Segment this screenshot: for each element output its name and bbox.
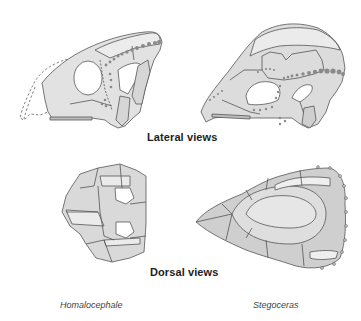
homalocephale-dorsal-skull: [62, 164, 146, 262]
stegoceras-lateral-skull: [201, 24, 345, 128]
species-label-homalocephale: Homalocephale: [60, 300, 123, 310]
skull-comparison-figure: Lateral views Dorsal views Homalocephale…: [0, 0, 361, 321]
stegoceras-dorsal-skull: [196, 166, 348, 270]
species-label-stegoceras: Stegoceras: [253, 300, 299, 310]
homalocephale-lateral-skull: [20, 32, 162, 128]
dorsal-views-heading: Dorsal views: [150, 266, 218, 278]
lateral-views-heading: Lateral views: [147, 131, 217, 143]
